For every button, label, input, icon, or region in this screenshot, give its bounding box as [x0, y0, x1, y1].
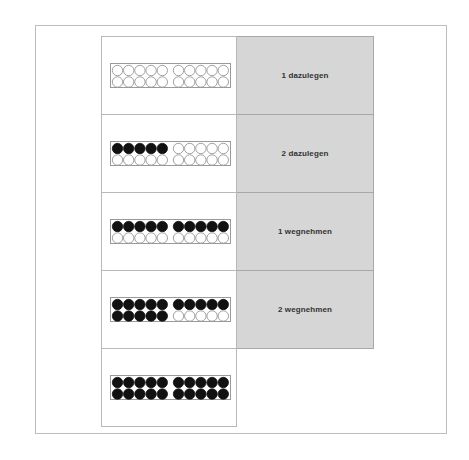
empty-bead [146, 155, 156, 165]
filled-bead [135, 311, 145, 321]
twenty-bead-rack [110, 375, 231, 400]
filled-bead [124, 221, 134, 231]
filled-bead [157, 143, 167, 153]
empty-bead [185, 155, 195, 165]
filled-bead [196, 299, 206, 309]
rack-cell [101, 114, 237, 193]
empty-bead [124, 155, 134, 165]
filled-bead [146, 143, 156, 153]
instruction-label: 2 wegnehmen [278, 305, 332, 314]
rack-cell [101, 192, 237, 271]
empty-bead [124, 77, 134, 87]
empty-bead [218, 143, 228, 153]
empty-bead [173, 155, 183, 165]
empty-bead [185, 77, 195, 87]
filled-bead [135, 377, 145, 387]
filled-bead [185, 377, 195, 387]
filled-bead [196, 389, 206, 399]
filled-bead [157, 299, 167, 309]
twenty-bead-rack [110, 63, 231, 88]
empty-bead [135, 65, 145, 75]
empty-bead [185, 233, 195, 243]
filled-bead [157, 221, 167, 231]
empty-bead [185, 143, 195, 153]
empty-bead [207, 233, 217, 243]
filled-bead [185, 299, 195, 309]
filled-bead [124, 311, 134, 321]
empty-bead [218, 311, 228, 321]
filled-bead [207, 299, 217, 309]
empty-bead [157, 233, 167, 243]
instruction-cell: 2 dazulegen [237, 114, 374, 193]
rack-cell [101, 348, 237, 427]
filled-bead [112, 299, 122, 309]
empty-bead [196, 143, 206, 153]
empty-bead [207, 155, 217, 165]
empty-bead [207, 311, 217, 321]
filled-bead [112, 377, 122, 387]
rack-cell [101, 270, 237, 349]
filled-bead [157, 389, 167, 399]
empty-bead [207, 65, 217, 75]
filled-bead [218, 389, 228, 399]
filled-bead [196, 377, 206, 387]
empty-bead [157, 65, 167, 75]
filled-bead [173, 221, 183, 231]
filled-bead [185, 221, 195, 231]
empty-bead [135, 233, 145, 243]
filled-bead [173, 299, 183, 309]
empty-bead [112, 77, 122, 87]
filled-bead [146, 389, 156, 399]
filled-bead [112, 311, 122, 321]
empty-bead [112, 65, 122, 75]
empty-bead [196, 77, 206, 87]
instruction-label: 1 wegnehmen [278, 227, 332, 236]
filled-bead [173, 377, 183, 387]
filled-bead [157, 311, 167, 321]
empty-bead [173, 233, 183, 243]
twenty-bead-rack [110, 297, 231, 322]
filled-bead [112, 389, 122, 399]
empty-bead [157, 77, 167, 87]
filled-bead [157, 377, 167, 387]
empty-bead [146, 233, 156, 243]
empty-bead [146, 65, 156, 75]
empty-bead [218, 155, 228, 165]
empty-bead [185, 311, 195, 321]
filled-bead [124, 143, 134, 153]
empty-bead [218, 77, 228, 87]
instruction-label: 2 dazulegen [282, 149, 329, 158]
empty-bead [207, 77, 217, 87]
filled-bead [196, 221, 206, 231]
instruction-cell: 1 dazulegen [237, 36, 374, 115]
empty-bead [135, 77, 145, 87]
filled-bead [124, 299, 134, 309]
filled-bead [218, 221, 228, 231]
twenty-bead-rack [110, 219, 231, 244]
instruction-cell: 1 wegnehmen [237, 192, 374, 271]
empty-bead [185, 65, 195, 75]
twenty-bead-rack [110, 141, 231, 166]
filled-bead [124, 389, 134, 399]
filled-bead [146, 377, 156, 387]
filled-bead [207, 389, 217, 399]
empty-bead [196, 65, 206, 75]
empty-bead [124, 233, 134, 243]
rack-cell [101, 36, 237, 115]
empty-bead [218, 233, 228, 243]
empty-bead [207, 143, 217, 153]
filled-bead [112, 143, 122, 153]
filled-bead [218, 377, 228, 387]
filled-bead [135, 389, 145, 399]
filled-bead [207, 221, 217, 231]
empty-bead [196, 311, 206, 321]
filled-bead [173, 389, 183, 399]
filled-bead [146, 221, 156, 231]
empty-bead [196, 233, 206, 243]
empty-bead [135, 155, 145, 165]
empty-bead [112, 233, 122, 243]
empty-bead [112, 155, 122, 165]
empty-bead [173, 77, 183, 87]
filled-bead [146, 299, 156, 309]
filled-bead [135, 221, 145, 231]
